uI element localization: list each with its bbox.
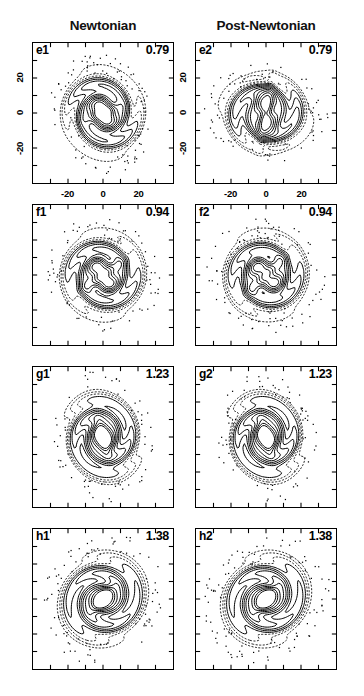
y-tick-label: -20 [177,137,188,159]
panel-time-value-g1: 1.23 [146,368,169,381]
panel-tag-g1: g1 [36,368,49,381]
particle-speckle [204,63,328,161]
contour-plot [33,205,173,345]
contour-plot [33,367,173,507]
particle-speckle [44,537,161,663]
x-tick-label: -20 [55,188,81,199]
panel-tag-h1: h1 [36,530,49,543]
column-header-newtonian: Newtonian [32,18,174,33]
contour-panel-g2: g21.23 [195,366,337,508]
y-tick-label: 20 [177,66,188,88]
axis-ticks [196,43,336,183]
contour-panel-h2: h21.38 [195,528,337,670]
axis-ticks [33,367,173,507]
y-tick-label: 20 [14,66,25,88]
contour-panel-f2: f20.94 [195,204,337,346]
panel-time-value-e1: 0.79 [146,44,169,57]
panel-tag-e1: e1 [36,44,49,57]
x-tick-label: 0 [253,188,279,199]
panel-time-value-h2: 1.38 [309,530,332,543]
panel-tag-f2: f2 [199,206,209,219]
x-tick-label: 0 [90,188,116,199]
contour-plot [33,529,173,669]
contour-panel-g1: g11.23 [32,366,174,508]
contour-plot [196,43,336,183]
axis-ticks [196,205,336,345]
panel-time-value-e2: 0.79 [309,44,332,57]
axis-ticks [33,43,173,183]
panel-time-value-f1: 0.94 [146,206,169,219]
x-tick-label: -20 [218,188,244,199]
contour-panel-f1: f10.94 [32,204,174,346]
panel-tag-e2: e2 [199,44,212,57]
y-tick-label: 0 [177,102,188,124]
axis-ticks [196,367,336,507]
contour-panel-e1: e10.79 [32,42,174,184]
contour-plot [196,205,336,345]
contour-figure: Newtonian Post-Newtonian e10.79e20.79f10… [0,0,364,696]
x-tick-label: 20 [126,188,152,199]
panel-time-value-h1: 1.38 [146,530,169,543]
panel-time-value-g2: 1.23 [309,368,332,381]
y-tick-label: 0 [14,102,25,124]
y-tick-label: -20 [14,137,25,159]
panel-time-value-f2: 0.94 [309,206,332,219]
contour-panel-h1: h11.38 [32,528,174,670]
x-tick-label: 20 [289,188,315,199]
panel-tag-g2: g2 [199,368,212,381]
column-header-post-newtonian: Post-Newtonian [195,18,337,33]
contour-plot [196,367,336,507]
contour-panel-e2: e20.79 [195,42,337,184]
panel-tag-h2: h2 [199,530,212,543]
contour-plot [196,529,336,669]
axis-ticks [33,205,173,345]
panel-tag-f1: f1 [36,206,46,219]
contour-plot [33,43,173,183]
